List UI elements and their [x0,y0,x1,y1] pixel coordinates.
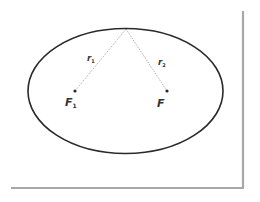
focus-label-f1: F1 [65,96,77,109]
radius-label-r1: r1 [87,53,95,64]
frame-shadow [11,11,244,188]
radius-line-r1 [75,29,126,91]
focus-point-f2 [165,89,168,92]
focus-point-f1 [73,89,76,92]
focus-label-f2: F [157,97,165,110]
radius-label-r2: r2 [158,57,166,68]
ellipse-foci-diagram: r1 r2 F1 F [0,0,260,202]
ellipse-curve [28,29,223,154]
